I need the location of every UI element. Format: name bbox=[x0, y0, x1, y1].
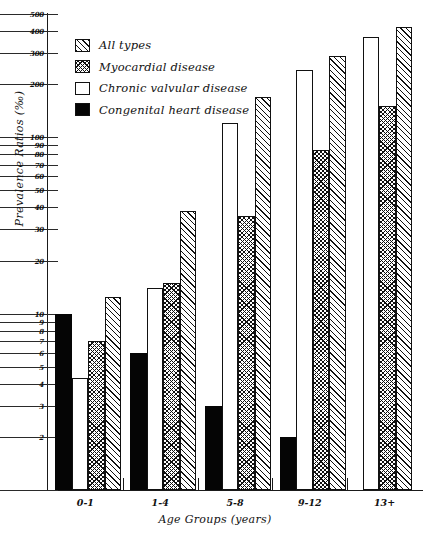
bar bbox=[180, 211, 197, 490]
x-axis-group-divider bbox=[198, 478, 199, 491]
x-axis-title: Age Groups (years) bbox=[0, 513, 430, 526]
legend-swatch-icon bbox=[75, 39, 90, 52]
y-axis-tick-label: 30 bbox=[35, 225, 44, 234]
bar bbox=[313, 150, 330, 490]
y-axis-tick-label: 9 bbox=[39, 317, 44, 326]
bar bbox=[379, 106, 396, 490]
y-axis-tick-label: 70 bbox=[35, 160, 44, 169]
bar bbox=[396, 27, 413, 490]
bar bbox=[280, 437, 297, 490]
y-axis-tick-label: 7 bbox=[39, 336, 44, 345]
x-axis-tick-label: 0-1 bbox=[77, 497, 94, 508]
legend-item: Myocardial disease bbox=[75, 60, 249, 74]
bar bbox=[238, 216, 255, 490]
y-axis-tick-label: 5 bbox=[39, 362, 44, 371]
y-axis-tick-label: 80 bbox=[35, 150, 44, 159]
y-axis-tick-label: 100 bbox=[30, 133, 44, 142]
y-axis-tick-label: 2 bbox=[39, 432, 44, 441]
bar bbox=[105, 297, 122, 490]
bar bbox=[55, 314, 72, 490]
x-axis-tick-label: 13+ bbox=[374, 497, 395, 508]
y-axis-tick-label: 20 bbox=[35, 256, 44, 265]
y-axis-tick-label: 400 bbox=[30, 27, 44, 36]
bar bbox=[329, 56, 346, 490]
chart-legend: All typesMyocardial diseaseChronic valvu… bbox=[75, 38, 249, 117]
bar bbox=[222, 123, 239, 490]
y-axis-tick-label: 3 bbox=[39, 401, 44, 410]
y-axis-tick-label: 40 bbox=[35, 203, 44, 212]
y-axis-tick-label: 6 bbox=[39, 348, 44, 357]
legend-swatch-icon bbox=[75, 103, 90, 116]
bar bbox=[130, 353, 147, 490]
legend-item-label: Congenital heart disease bbox=[99, 103, 249, 117]
bar bbox=[255, 97, 272, 490]
legend-item-label: Chronic valvular disease bbox=[99, 81, 248, 95]
bar bbox=[72, 378, 89, 490]
legend-swatch-icon bbox=[75, 82, 90, 95]
x-axis-group-divider bbox=[123, 478, 124, 491]
x-axis-group-divider bbox=[347, 478, 348, 491]
y-axis-tick-label: 50 bbox=[35, 186, 44, 195]
y-axis-tick-label: 60 bbox=[35, 172, 44, 181]
legend-item: All types bbox=[75, 38, 249, 52]
x-axis-tick-label: 1-4 bbox=[152, 497, 169, 508]
y-axis-tick-label: 4 bbox=[39, 379, 44, 388]
y-axis-tick-label: 200 bbox=[30, 80, 44, 89]
y-axis-tick-label: 8 bbox=[39, 326, 44, 335]
y-axis-tick-label: 10 bbox=[35, 309, 44, 318]
y-axis-title: Prevalence Ratios (‰) bbox=[13, 44, 26, 274]
x-axis-group-divider bbox=[272, 478, 273, 491]
bar bbox=[296, 70, 313, 490]
bar bbox=[147, 288, 164, 490]
x-axis-tick-label: 5-8 bbox=[226, 497, 243, 508]
bar bbox=[363, 37, 380, 490]
legend-swatch-icon bbox=[75, 60, 90, 73]
prevalence-ratio-bar-chart: 2345678910203040506070809010020030040050… bbox=[0, 0, 430, 540]
legend-item: Chronic valvular disease bbox=[75, 81, 249, 95]
legend-item-label: All types bbox=[99, 38, 151, 52]
legend-item: Congenital heart disease bbox=[75, 103, 249, 117]
legend-item-label: Myocardial disease bbox=[99, 60, 215, 74]
y-axis-tick-label: 500 bbox=[30, 10, 44, 19]
x-axis-line bbox=[47, 490, 423, 491]
bar bbox=[163, 283, 180, 490]
y-axis-tick-label: 90 bbox=[35, 141, 44, 150]
x-axis-tick-label: 9-12 bbox=[298, 497, 322, 508]
bar bbox=[88, 341, 105, 490]
bar bbox=[205, 406, 222, 490]
y-axis-tick bbox=[0, 490, 58, 491]
y-axis-tick-label: 300 bbox=[30, 49, 44, 58]
